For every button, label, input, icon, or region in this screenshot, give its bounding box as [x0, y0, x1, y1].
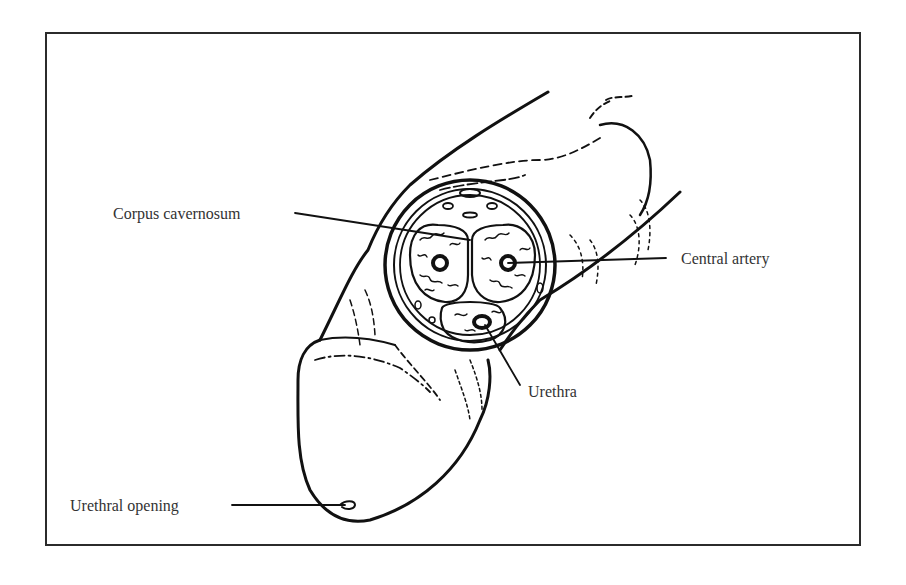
glans-outline	[298, 340, 490, 521]
urethra-lumen	[474, 316, 490, 328]
label-central-artery: Central artery	[681, 251, 769, 267]
shaft-outline-top	[320, 92, 548, 340]
label-urethra: Urethra	[528, 384, 577, 400]
leader-corpus-cavernosum	[295, 213, 470, 240]
shaft-end	[600, 123, 651, 215]
label-urethral-opening: Urethral opening	[70, 498, 179, 514]
leader-central-artery	[508, 258, 666, 263]
corpus-cavernosum-left	[410, 225, 468, 302]
central-artery-left	[433, 256, 447, 270]
label-corpus-cavernosum: Corpus cavernosum	[113, 206, 241, 222]
